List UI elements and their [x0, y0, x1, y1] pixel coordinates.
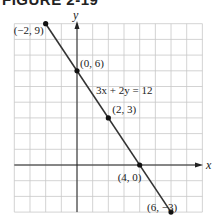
point-label: (0, 6): [80, 57, 104, 70]
data-point: [106, 115, 111, 120]
equation-label: 3x + 2y = 12: [96, 84, 152, 96]
x-axis-arrow-icon: [195, 163, 203, 168]
y-axis-label: y: [72, 8, 79, 22]
data-point: [137, 162, 142, 167]
point-label: (2, 3): [112, 103, 136, 116]
point-label: (4, 0): [118, 171, 142, 184]
point-label: (−2, 9): [14, 24, 44, 37]
y-axis-arrow-icon: [75, 21, 80, 29]
data-point: [74, 68, 79, 73]
line-graph: xy (−2, 9)(0, 6)(2, 3)(4, 0)(6, −3)3x + …: [0, 0, 216, 224]
x-axis-label: x: [205, 158, 212, 172]
point-label: (6, −3): [147, 201, 177, 214]
data-point: [43, 21, 48, 26]
